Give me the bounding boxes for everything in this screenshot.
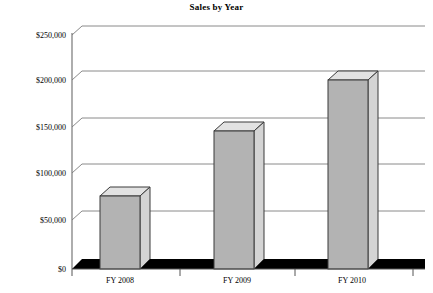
bar-fy-2008[interactable] [100,187,150,269]
y-tick-label-200000: $200,000 [8,76,66,85]
bar-front-face [328,80,368,269]
bar-fy-2010[interactable] [328,71,378,269]
bar-fy-2009[interactable] [214,122,264,269]
chart-container: Sales by Year [0,0,433,293]
plot-area: $250,000 $200,000 $150,000 $100,000 $50,… [0,0,433,293]
bar-side-face [254,122,264,269]
y-tick-label-150000: $150,000 [8,123,66,132]
bar-side-face [140,187,150,269]
y-tick-label-50000: $50,000 [8,216,66,225]
y-tick-label-0: $0 [8,265,66,274]
bar-front-face [100,196,140,269]
x-tick-label-fy-2008: FY 2008 [88,276,152,285]
bar-front-face [214,131,254,269]
x-tick-label-fy-2010: FY 2010 [320,276,384,285]
x-tick-label-fy-2009: FY 2009 [205,276,269,285]
bar-side-face [368,71,378,269]
chart-svg [0,0,433,293]
y-tick-label-100000: $100,000 [8,169,66,178]
y-tick-label-250000: $250,000 [8,31,66,40]
